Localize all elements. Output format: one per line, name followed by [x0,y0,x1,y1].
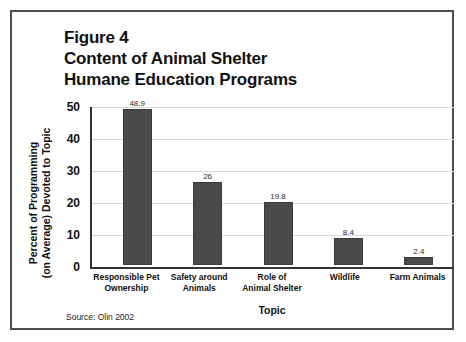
bar-value-label: 19.8 [243,192,313,201]
x-axis-title: Topic [90,304,454,316]
category-label: Safety around Animals [163,272,236,293]
category-label-line: Animals [163,283,236,294]
bar-value-label: 26 [172,172,242,181]
title-line-3: Humane Education Programs [64,69,444,90]
bar-value-label: 8.4 [313,228,383,237]
ytick-label-30: 30 [34,164,80,178]
ytick-label-50: 50 [34,100,80,114]
category-label-line: Responsible Pet [90,272,163,283]
bar-rect [193,182,222,265]
ytick-label-40: 40 [34,132,80,146]
category-label-line: Safety around [163,272,236,283]
bar-series: 48.9 26 19.8 8.4 2.4 [102,107,454,265]
bar-rect [334,238,363,265]
category-label-line: Animal Shelter [236,283,309,294]
title-line-1: Figure 4 [64,27,444,48]
ytick-label-0: 0 [34,260,80,274]
plot-area: 50 40 30 20 10 0 48.9 26 19.8 [80,107,454,269]
bar-rect [123,109,152,265]
bar-slot: 19.8 [243,107,313,265]
figure-title: Figure 4 Content of Animal Shelter Human… [64,27,444,90]
category-label-line: Farm Animals [381,272,454,283]
bar-slot: 8.4 [313,107,383,265]
bar-slot: 48.9 [102,107,172,265]
category-label: Responsible Pet Ownership [90,272,163,293]
category-label-line: Role of [236,272,309,283]
bar-rect [264,202,293,265]
ytick-label-10: 10 [34,228,80,242]
category-label: Wildlife [308,272,381,293]
x-axis-category-labels: Responsible Pet Ownership Safety around … [90,272,454,293]
bar-slot: 2.4 [384,107,454,265]
bar-value-label: 48.9 [102,99,172,108]
bar-rect [404,257,433,265]
figure-frame: Figure 4 Content of Animal Shelter Human… [10,10,454,330]
ytick-label-20: 20 [34,196,80,210]
category-label: Role of Animal Shelter [236,272,309,293]
plot-inner: 50 40 30 20 10 0 48.9 26 19.8 [90,107,454,269]
category-label-line: Wildlife [308,272,381,283]
source-note: Source: Olin 2002 [66,312,134,322]
bar-slot: 26 [172,107,242,265]
title-line-2: Content of Animal Shelter [64,48,444,69]
category-label: Farm Animals [381,272,454,293]
bar-value-label: 2.4 [384,247,454,256]
category-label-line: Ownership [90,283,163,294]
